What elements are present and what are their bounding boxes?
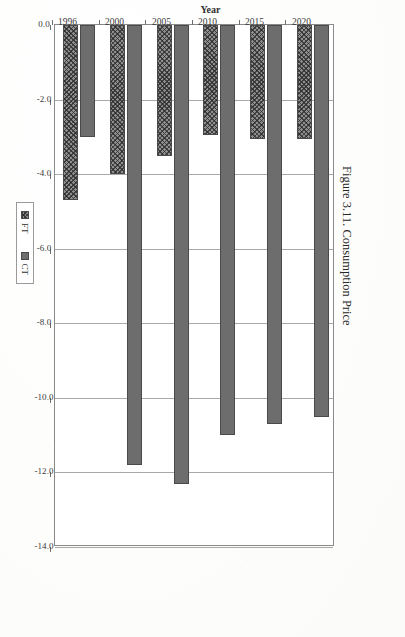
category-axis-label: 2015 [228, 17, 264, 27]
bar-ft [110, 25, 125, 174]
chart-legend: FT CT [16, 202, 34, 284]
bar-ft [250, 25, 265, 139]
bar-group [150, 25, 190, 547]
bar-group [243, 25, 283, 547]
legend-label-ft: FT [20, 223, 30, 234]
plot-frame [54, 24, 334, 546]
figure-caption: Figure 3.11. Consumption Price [339, 166, 354, 386]
bar-ft [297, 25, 312, 139]
plot-area [55, 25, 333, 545]
value-axis-label: -12.0 [34, 466, 53, 476]
value-axis-label: -10.0 [34, 392, 53, 402]
bar-group [290, 25, 330, 547]
bar-ct [174, 25, 189, 484]
bar-ft [203, 25, 218, 135]
bar-group [56, 25, 96, 547]
bar-group [196, 25, 236, 547]
value-axis-label: -4.0 [37, 168, 52, 178]
legend-label-ct: CT [20, 264, 30, 276]
category-axis-label: 2020 [275, 17, 311, 27]
bar-ct [220, 25, 235, 435]
legend-item-ct: CT [20, 252, 30, 276]
bar-ct [80, 25, 95, 137]
bar-ct [314, 25, 329, 417]
bar-ct [127, 25, 142, 465]
value-axis-label: -14.0 [34, 541, 53, 551]
bar-ct [267, 25, 282, 424]
category-axis-title: Year [156, 4, 266, 15]
bar-ft [63, 25, 78, 200]
bar-group [103, 25, 143, 547]
figure-container: 0.0-2.0-4.0-6.0-8.0-10.0-12.0-14.0 20202… [16, 24, 334, 584]
value-axis-label: -2.0 [37, 94, 52, 104]
value-axis-label: -8.0 [37, 317, 52, 327]
value-axis-ticks: 0.0-2.0-4.0-6.0-8.0-10.0-12.0-14.0 [27, 24, 53, 546]
category-axis-label: 2000 [88, 17, 124, 27]
legend-swatch-ft-icon [21, 211, 29, 219]
legend-item-ft: FT [20, 211, 30, 234]
value-axis-label: -6.0 [37, 243, 52, 253]
category-axis-label: 2010 [181, 17, 217, 27]
category-axis-label: 1996 [41, 17, 77, 27]
gridline [55, 547, 333, 548]
bar-ft [157, 25, 172, 156]
legend-swatch-ct-icon [21, 252, 29, 260]
category-axis-label: 2005 [135, 17, 171, 27]
